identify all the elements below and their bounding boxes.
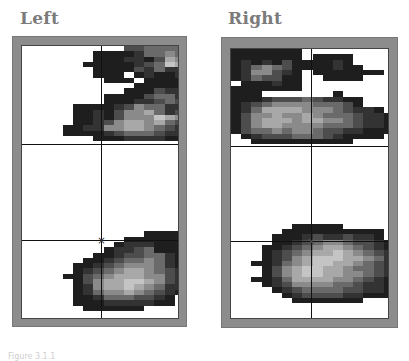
heatmap-cell bbox=[313, 298, 323, 303]
heatmap-row bbox=[231, 298, 389, 303]
heatmap-cell bbox=[353, 298, 363, 303]
heatmap-cell bbox=[32, 306, 42, 311]
heatmap-cell bbox=[144, 306, 154, 311]
heatmap-cell bbox=[42, 306, 52, 311]
heatmap-cell bbox=[53, 306, 63, 311]
heatmap-cell bbox=[154, 306, 164, 311]
heatmap-cell bbox=[282, 298, 292, 303]
right-panel-title: Right bbox=[228, 8, 282, 28]
left-heatmap: × bbox=[21, 45, 179, 319]
right-upper-horizontal-line bbox=[231, 146, 388, 147]
heatmap-cell bbox=[323, 298, 333, 303]
left-panel-title: Left bbox=[20, 8, 59, 28]
heatmap-cell bbox=[384, 298, 389, 303]
heatmap-cell bbox=[241, 298, 251, 303]
right-vertical-crosshair bbox=[311, 49, 312, 318]
left-vertical-crosshair bbox=[101, 46, 102, 318]
left-upper-horizontal-line bbox=[22, 144, 178, 145]
heatmap-cell bbox=[363, 298, 373, 303]
heatmap-cell bbox=[374, 298, 384, 303]
right-heatmap-grid bbox=[231, 49, 389, 303]
heatmap-cell bbox=[343, 298, 353, 303]
heatmap-cell bbox=[272, 298, 282, 303]
heatmap-cell bbox=[104, 306, 114, 311]
heatmap-cell bbox=[124, 306, 134, 311]
heatmap-cell bbox=[231, 298, 241, 303]
heatmap-cell bbox=[165, 306, 175, 311]
heatmap-cell bbox=[175, 306, 179, 311]
heatmap-cell bbox=[83, 306, 93, 311]
heatmap-cell bbox=[73, 306, 83, 311]
heatmap-cell bbox=[134, 306, 144, 311]
right-heatmap: × bbox=[230, 48, 389, 319]
right-panel-frame: × bbox=[221, 37, 398, 328]
heatmap-cell bbox=[22, 306, 32, 311]
heatmap-cell bbox=[333, 298, 343, 303]
figure-caption: Figure 3.1.1 bbox=[8, 352, 55, 361]
left-center-x-marker: × bbox=[97, 236, 106, 245]
right-center-x-marker: × bbox=[307, 237, 316, 246]
heatmap-cell bbox=[63, 306, 73, 311]
heatmap-cell bbox=[262, 298, 272, 303]
heatmap-cell bbox=[292, 298, 302, 303]
left-panel-frame: × bbox=[12, 36, 187, 327]
heatmap-cell bbox=[251, 298, 261, 303]
heatmap-cell bbox=[114, 306, 124, 311]
